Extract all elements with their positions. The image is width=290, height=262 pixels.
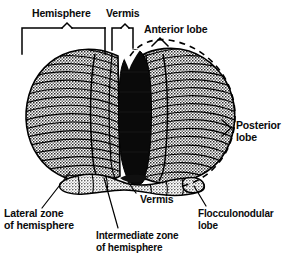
label-lateral-zone-line1: Lateral zone	[4, 208, 63, 220]
label-hemisphere: Hemisphere	[32, 8, 91, 20]
label-intermediate-zone-line2: of hemisphere	[96, 242, 162, 253]
label-anterior-lobe: Anterior lobe	[144, 24, 207, 36]
label-vermis-top: Vermis	[106, 8, 140, 20]
label-flocculonodular-line1: Flocculonodular	[198, 208, 274, 219]
label-posterior-lobe-line1: Posterior	[236, 120, 281, 132]
left-cerebellar-hemisphere	[17, 48, 122, 183]
figure-canvas: Hemisphere Vermis Anterior lobe Posterio…	[0, 0, 290, 262]
vermis-bracket	[112, 24, 133, 50]
label-intermediate-zone-line1: Intermediate zone	[96, 230, 178, 241]
label-lateral-zone-line2: of hemisphere	[4, 220, 74, 232]
label-vermis-bottom: Vermis	[140, 194, 174, 206]
vermis-structure	[119, 50, 152, 185]
label-flocculonodular-line2: lobe	[198, 220, 218, 231]
label-posterior-lobe-line2: lobe	[236, 132, 257, 144]
